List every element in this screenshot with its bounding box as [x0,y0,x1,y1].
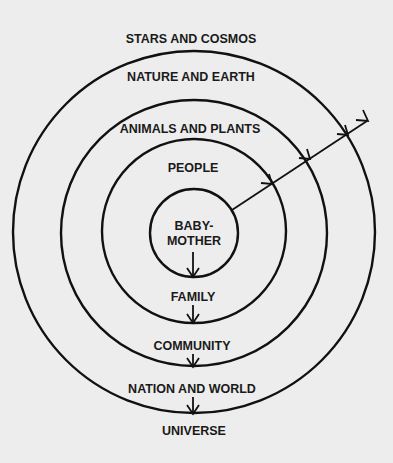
label-people: PEOPLE [168,161,219,175]
arrowhead-icon [356,110,368,121]
label-nature-and-earth: NATURE AND EARTH [127,70,255,84]
ring-inner [150,189,238,277]
label-animals-and-plants: ANIMALS AND PLANTS [120,122,261,136]
label-mother: MOTHER [167,234,221,248]
label-baby: BABY- [175,219,214,233]
label-family: FAMILY [171,290,216,304]
label-community: COMMUNITY [153,339,231,353]
expanding-circles-diagram: STARS AND COSMOS NATURE AND EARTH ANIMAL… [0,0,393,463]
label-stars-and-cosmos: STARS AND COSMOS [126,32,257,46]
label-nation-and-world: NATION AND WORLD [128,382,256,396]
label-universe: UNIVERSE [162,424,226,438]
